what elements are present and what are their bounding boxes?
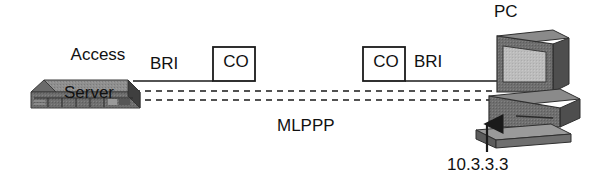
link-mlppp-bundle	[134, 91, 492, 100]
co-left-label: CO	[216, 52, 256, 71]
pc-label: PC	[494, 2, 518, 21]
access-server-label-line2: Server	[34, 83, 144, 102]
access-server-label-line1: Access	[71, 45, 126, 64]
mlppp-label: MLPPP	[277, 116, 335, 135]
pc-ip-address-label: 10.3.3.3	[447, 155, 508, 174]
pc-icon	[476, 30, 580, 148]
co-right-label: CO	[366, 52, 406, 71]
bri-right-label: BRI	[414, 52, 442, 71]
bri-left-label: BRI	[150, 54, 178, 73]
access-server-label: Access Server	[34, 26, 144, 140]
network-diagram: Access Server BRI CO CO BRI PC MLPPP 10.…	[0, 0, 594, 181]
